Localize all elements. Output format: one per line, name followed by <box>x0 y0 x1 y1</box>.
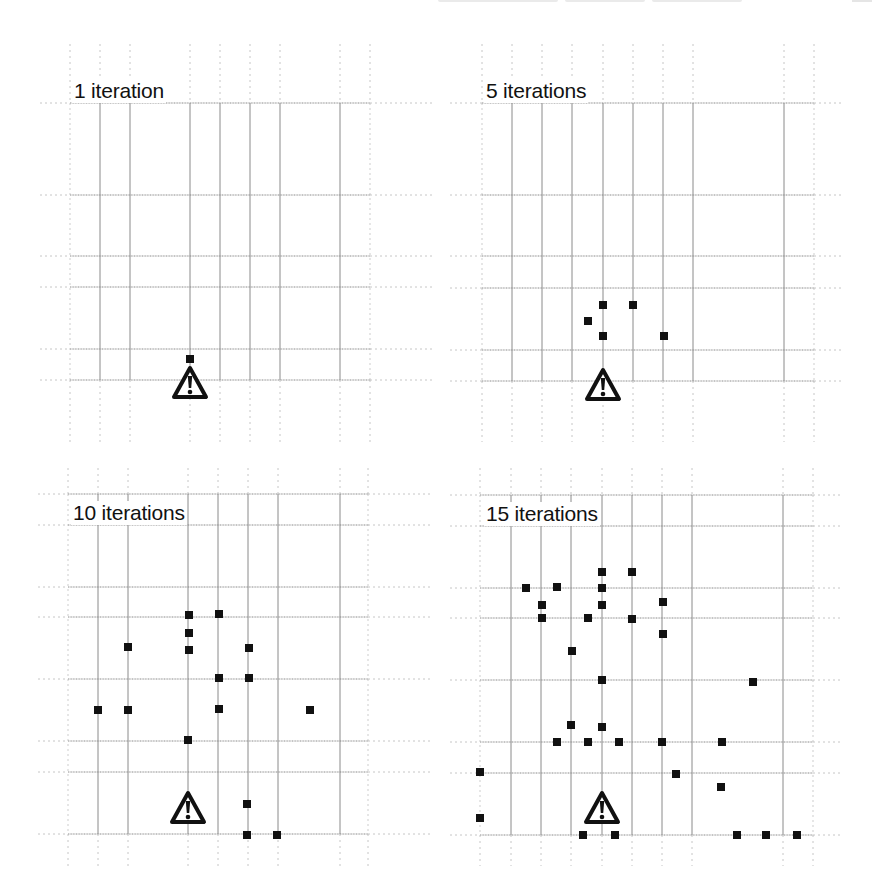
node-marker <box>245 644 253 652</box>
panel-title-1-iteration: 1 iteration <box>72 79 166 103</box>
node-marker <box>672 770 680 778</box>
node-marker <box>658 738 666 746</box>
node-marker <box>615 738 623 746</box>
node-marker <box>659 598 667 606</box>
node-marker <box>306 706 314 714</box>
node-marker <box>717 783 725 791</box>
panel-title-15-iterations: 15 iterations <box>484 502 600 526</box>
node-marker <box>599 332 607 340</box>
node-marker <box>598 568 606 576</box>
warning-icon <box>174 368 206 397</box>
node-marker <box>598 723 606 731</box>
node-marker <box>185 646 193 654</box>
node-marker <box>598 676 606 684</box>
panel-tl <box>40 44 432 442</box>
figure-canvas <box>0 0 876 895</box>
node-marker <box>584 738 592 746</box>
node-marker <box>124 706 132 714</box>
node-marker <box>629 301 637 309</box>
node-marker <box>749 678 757 686</box>
warning-icon <box>587 370 619 399</box>
node-marker <box>733 831 741 839</box>
node-marker <box>186 355 194 363</box>
node-marker <box>273 831 281 839</box>
node-marker <box>522 584 530 592</box>
node-marker <box>793 831 801 839</box>
node-marker <box>215 610 223 618</box>
node-marker <box>185 611 193 619</box>
node-marker <box>659 630 667 638</box>
node-marker <box>538 614 546 622</box>
warning-icon <box>586 793 618 822</box>
node-marker <box>584 317 592 325</box>
node-marker <box>94 706 102 714</box>
node-marker <box>628 615 636 623</box>
node-marker <box>568 647 576 655</box>
node-marker <box>567 721 575 729</box>
panel-tr <box>450 44 842 442</box>
warning-icon <box>172 793 204 822</box>
panel-br <box>450 468 842 866</box>
node-marker <box>579 831 587 839</box>
node-marker <box>660 332 668 340</box>
node-marker <box>476 814 484 822</box>
node-marker <box>538 601 546 609</box>
panel-title-10-iterations: 10 iterations <box>71 501 187 525</box>
node-marker <box>553 738 561 746</box>
node-marker <box>185 629 193 637</box>
panel-title-5-iterations: 5 iterations <box>484 79 588 103</box>
node-marker <box>553 583 561 591</box>
node-marker <box>599 301 607 309</box>
node-marker <box>628 568 636 576</box>
node-marker <box>243 831 251 839</box>
node-marker <box>584 614 592 622</box>
node-marker <box>762 831 770 839</box>
panel-bl <box>38 468 432 866</box>
node-marker <box>215 674 223 682</box>
node-marker <box>598 601 606 609</box>
node-marker <box>243 800 251 808</box>
node-marker <box>215 705 223 713</box>
node-marker <box>245 674 253 682</box>
node-marker <box>184 736 192 744</box>
node-marker <box>718 738 726 746</box>
node-marker <box>124 643 132 651</box>
node-marker <box>476 768 484 776</box>
node-marker <box>598 584 606 592</box>
node-marker <box>611 831 619 839</box>
